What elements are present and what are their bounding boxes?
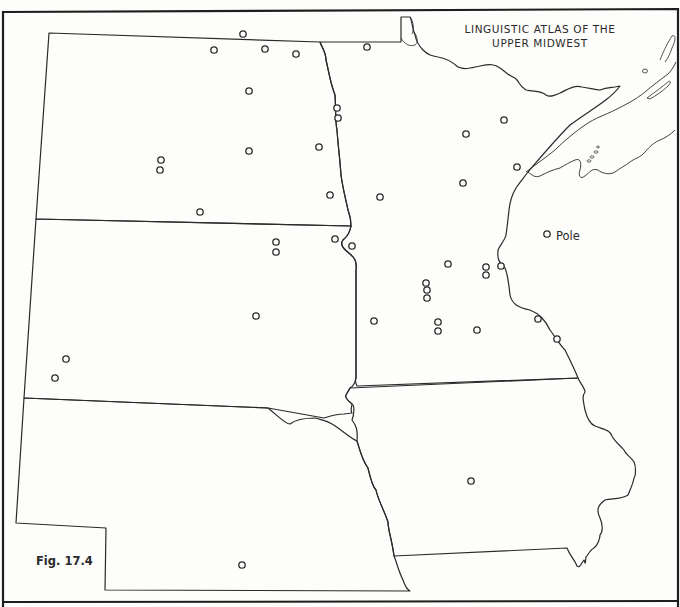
map-canvas — [0, 0, 680, 607]
point-marker-icon — [474, 327, 480, 333]
point-marker-icon — [246, 148, 252, 154]
point-marker-icon — [463, 131, 469, 137]
point-marker-icon — [424, 295, 430, 301]
point-marker-icon — [377, 194, 383, 200]
point-marker-icon — [332, 236, 338, 242]
point-marker-icon — [334, 105, 340, 111]
point-marker-icon — [435, 319, 441, 325]
apostle-islands — [587, 146, 599, 162]
point-marker-icon — [423, 280, 429, 286]
point-marker-icon — [445, 261, 451, 267]
map-title-line-1: LINGUISTIC ATLAS OF THE — [440, 23, 640, 35]
pole-label: Pole — [556, 229, 580, 243]
lake-of-the-woods — [401, 17, 417, 46]
figure-label: Fig. 17.4 — [36, 554, 93, 568]
informant-points — [52, 31, 560, 568]
point-marker-icon — [498, 263, 504, 269]
point-marker-icon — [273, 249, 279, 255]
point-marker-icon — [316, 144, 322, 150]
point-marker-icon — [240, 31, 246, 37]
point-marker-icon — [371, 318, 377, 324]
point-marker-icon — [63, 356, 69, 362]
map-frame-border — [3, 9, 678, 607]
point-marker-icon — [544, 231, 550, 237]
point-marker-icon — [468, 478, 474, 484]
point-marker-icon — [211, 47, 217, 53]
point-marker-icon — [253, 313, 259, 319]
point-marker-icon — [273, 239, 279, 245]
point-marker-icon — [460, 180, 466, 186]
state-south-dakota — [24, 219, 356, 418]
point-marker-icon — [335, 115, 341, 121]
point-marker-icon — [262, 46, 268, 52]
thunder-bay-peninsula — [660, 36, 675, 62]
point-marker-icon — [197, 209, 203, 215]
state-minnesota — [320, 17, 620, 386]
point-marker-icon — [514, 164, 520, 170]
point-marker-icon — [483, 264, 489, 270]
state-north-dakota — [36, 33, 351, 226]
point-marker-icon — [483, 272, 489, 278]
point-marker-icon — [293, 51, 299, 57]
point-marker-icon — [158, 157, 164, 163]
state-iowa — [346, 378, 636, 567]
point-marker-icon — [424, 287, 430, 293]
isle-royale — [647, 81, 670, 99]
point-marker-icon — [554, 336, 560, 342]
point-marker-icon — [327, 192, 333, 198]
point-marker-icon — [501, 117, 507, 123]
point-marker-icon — [239, 562, 245, 568]
point-marker-icon — [246, 88, 252, 94]
point-marker-icon — [435, 328, 441, 334]
point-marker-icon — [157, 167, 163, 173]
point-marker-icon — [349, 243, 355, 249]
point-marker-icon — [52, 375, 58, 381]
small-island — [643, 69, 648, 73]
point-marker-icon — [535, 316, 541, 322]
lake-superior-north-shore — [526, 62, 676, 172]
point-marker-icon — [364, 44, 370, 50]
map-title-line-2: UPPER MIDWEST — [440, 37, 640, 49]
